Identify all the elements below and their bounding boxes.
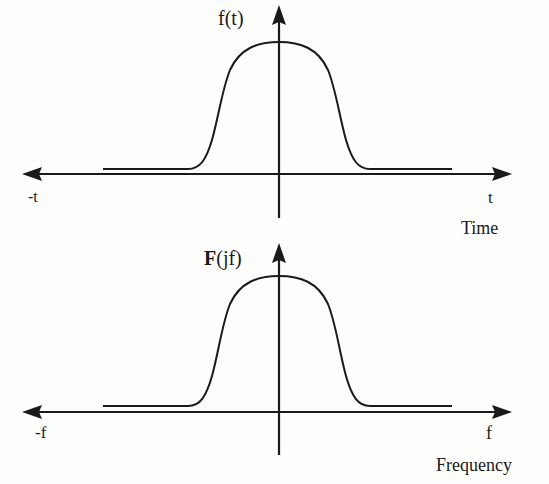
x-axis-left-arrow-icon [22, 405, 42, 419]
time-domain-plot [0, 0, 549, 242]
frequency-spectrum-curve [103, 276, 452, 406]
freq-y-label-bold: F [204, 247, 216, 269]
x-axis-right-arrow-icon [492, 167, 512, 181]
freq-x-pos-label: f [486, 424, 492, 442]
freq-y-label-rest: (jf) [216, 247, 242, 269]
time-pulse-curve [103, 42, 452, 169]
y-axis-up-arrow-icon [272, 243, 286, 263]
fourier-pair-diagram: f(t) -t t Time F(jf) -f f Frequency [0, 0, 549, 484]
x-axis-left-arrow-icon [22, 167, 42, 181]
y-axis-up-arrow-icon [272, 5, 286, 25]
time-axis-title: Time [461, 219, 498, 237]
freq-x-neg-label: -f [35, 424, 46, 441]
time-x-neg-label: -t [28, 189, 38, 205]
time-y-axis-label: f(t) [218, 8, 244, 28]
frequency-domain-plot [0, 242, 549, 484]
x-axis-right-arrow-icon [492, 405, 512, 419]
freq-y-axis-label: F(jf) [204, 248, 242, 268]
frequency-axis-title: Frequency [436, 456, 512, 474]
time-x-pos-label: t [488, 189, 493, 206]
